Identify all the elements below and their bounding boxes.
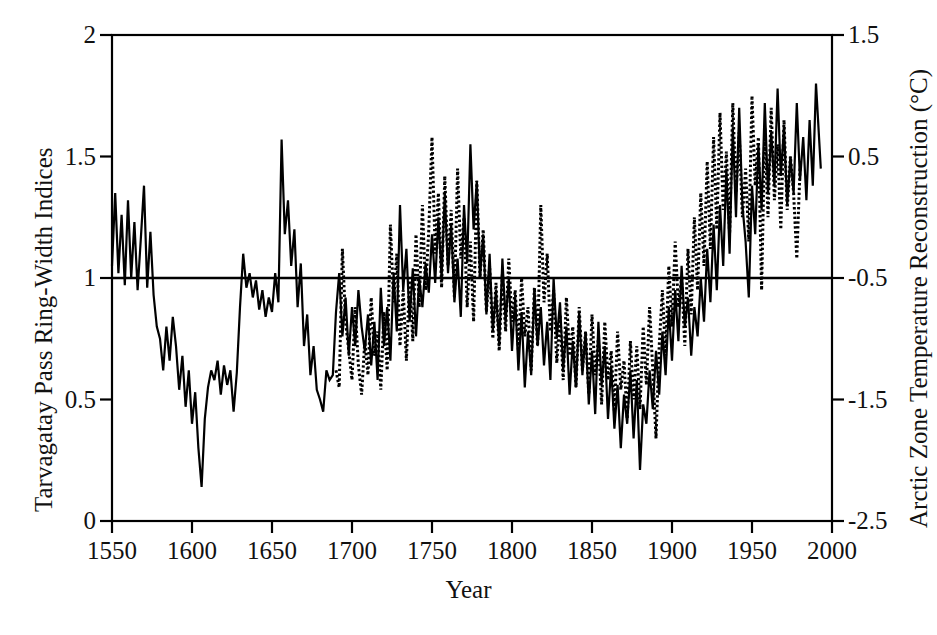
plot-area — [0, 0, 937, 635]
x-tick-label: 1700 — [327, 537, 377, 565]
data-series-layer — [112, 84, 821, 487]
y-tick-label: 0.5 — [65, 386, 96, 414]
x-tick-label: 1850 — [567, 537, 617, 565]
y-tick-label: 2 — [84, 21, 97, 49]
x-tick-label: 1650 — [247, 537, 297, 565]
series-line-0 — [112, 84, 821, 487]
y-tick-label: 0 — [84, 507, 97, 535]
x-tick-label: 1950 — [727, 537, 777, 565]
x-tick-label: 1900 — [647, 537, 697, 565]
x-tick-label: 1800 — [487, 537, 537, 565]
y2-tick-label: 0.5 — [848, 143, 879, 171]
chart-figure: Tarvagatay Pass Ring-Width Indices Arcti… — [0, 0, 937, 635]
y-tick-label: 1.5 — [65, 143, 96, 171]
right-axis-title: Arctic Zone Temperature Reconstruction (… — [905, 69, 933, 528]
y2-tick-label: 1.5 — [848, 21, 879, 49]
x-tick-label: 1550 — [87, 537, 137, 565]
x-axis-title: Year — [0, 576, 937, 604]
y2-tick-label: -2.5 — [848, 507, 888, 535]
x-tick-label: 2000 — [807, 537, 857, 565]
y2-tick-label: -0.5 — [848, 264, 888, 292]
left-axis-title: Tarvagatay Pass Ring-Width Indices — [30, 147, 58, 512]
x-tick-label: 1600 — [167, 537, 217, 565]
y2-tick-label: -1.5 — [848, 386, 888, 414]
x-tick-label: 1750 — [407, 537, 457, 565]
y-tick-label: 1 — [84, 264, 97, 292]
